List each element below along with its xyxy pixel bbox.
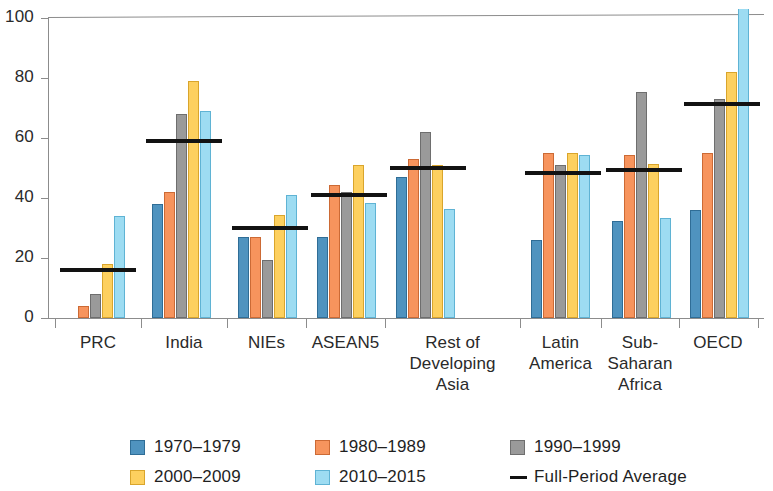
bar <box>353 165 364 318</box>
x-axis-label-line: Sub- <box>595 332 685 353</box>
x-axis-label-line: Developing <box>408 353 498 374</box>
legend-item[interactable]: 2000–2009 <box>130 467 315 487</box>
bar <box>624 155 635 319</box>
x-axis-label: LatinAmerica <box>516 332 606 374</box>
x-axis-tick <box>520 319 521 328</box>
bar <box>543 153 554 318</box>
bar <box>690 210 701 318</box>
bar-group <box>612 18 677 318</box>
x-axis-label-line: NIEs <box>222 332 312 353</box>
x-axis-label: Sub-SaharanAfrica <box>595 332 685 395</box>
bar <box>714 99 725 318</box>
bar <box>114 216 125 318</box>
x-axis-label: OECD <box>673 332 763 353</box>
bar <box>567 153 578 318</box>
legend-item[interactable]: Full-Period Average <box>510 467 750 487</box>
x-axis-tick <box>141 319 142 328</box>
bar <box>365 203 376 319</box>
bar <box>78 306 89 318</box>
bar-group-bars <box>66 18 131 318</box>
y-axis-tick-label: 100 <box>0 7 34 27</box>
x-axis-label-line: India <box>139 332 229 353</box>
x-axis-label-line: Rest of <box>408 332 498 353</box>
bar <box>444 209 455 319</box>
bar-group-bars <box>531 18 596 318</box>
bar-group <box>317 18 382 318</box>
x-axis-tick <box>227 319 228 328</box>
bar <box>262 260 273 319</box>
bar-group <box>531 18 596 318</box>
bar <box>648 164 659 319</box>
x-axis-label-line: OECD <box>673 332 763 353</box>
bar-group-bars <box>152 18 217 318</box>
bar-group <box>152 18 217 318</box>
bar <box>579 155 590 319</box>
y-axis-tick-label: 60 <box>0 127 34 147</box>
x-axis-label: India <box>139 332 229 353</box>
x-axis-label-line: Latin <box>516 332 606 353</box>
legend-swatch-icon <box>315 470 330 485</box>
bar <box>102 264 113 318</box>
bar <box>726 72 737 318</box>
bar-group-bars <box>690 18 755 318</box>
x-axis-line <box>48 318 764 319</box>
y-axis-tick-label: 0 <box>0 307 34 327</box>
full-period-average-line <box>146 139 222 143</box>
legend-swatch-icon <box>130 440 145 455</box>
bar-group-bars <box>317 18 382 318</box>
x-axis-label: Rest ofDevelopingAsia <box>408 332 498 395</box>
bar <box>341 192 352 318</box>
bar <box>636 92 647 319</box>
bar <box>660 218 671 319</box>
y-axis-tick <box>41 318 49 319</box>
x-axis-label-line: ASEAN5 <box>301 332 391 353</box>
bar <box>90 294 101 318</box>
bar <box>738 9 749 318</box>
x-axis-label-line: America <box>516 353 606 374</box>
bar-group <box>396 18 461 318</box>
bar-chart: 100806040200 PRCIndiaNIEsASEAN5Rest ofDe… <box>0 0 773 491</box>
bar <box>702 153 713 318</box>
legend-label: 2010–2015 <box>339 467 426 487</box>
bar-group <box>238 18 303 318</box>
legend-item[interactable]: 1990–1999 <box>510 437 750 457</box>
bar <box>188 81 199 318</box>
x-axis-label-line: PRC <box>53 332 143 353</box>
bar-group <box>66 18 131 318</box>
plot-area <box>48 18 764 318</box>
legend-label: 1970–1979 <box>154 437 241 457</box>
x-axis-tick <box>679 319 680 328</box>
bar <box>420 132 431 318</box>
x-axis-label: ASEAN5 <box>301 332 391 353</box>
bar-group-bars <box>238 18 303 318</box>
bar <box>329 185 340 319</box>
full-period-average-line <box>390 166 466 170</box>
legend-item[interactable]: 1970–1979 <box>130 437 315 457</box>
x-axis-label-line: Africa <box>595 374 685 395</box>
bar <box>250 237 261 318</box>
y-axis-tick-label: 20 <box>0 247 34 267</box>
full-period-average-line <box>525 171 601 175</box>
legend-item[interactable]: 1980–1989 <box>315 437 510 457</box>
full-period-average-line <box>232 226 308 230</box>
x-axis-label: PRC <box>53 332 143 353</box>
bar <box>286 195 297 318</box>
bar <box>612 221 623 319</box>
bar <box>152 204 163 318</box>
x-axis-label-line: Asia <box>408 374 498 395</box>
x-axis-label: NIEs <box>222 332 312 353</box>
x-axis-tick <box>601 319 602 328</box>
bar <box>555 165 566 318</box>
legend-label: 2000–2009 <box>154 467 241 487</box>
legend-label: 1990–1999 <box>534 437 621 457</box>
bar <box>238 237 249 318</box>
chart-legend: 1970–19791980–19891990–19992000–20092010… <box>130 432 750 491</box>
legend-swatch-icon <box>510 440 525 455</box>
bar <box>164 192 175 318</box>
legend-item[interactable]: 2010–2015 <box>315 467 510 487</box>
y-axis-tick-label: 40 <box>0 187 34 207</box>
full-period-average-line <box>60 268 136 272</box>
x-axis-tick <box>306 319 307 328</box>
legend-label: 1980–1989 <box>339 437 426 457</box>
bar <box>432 165 443 318</box>
